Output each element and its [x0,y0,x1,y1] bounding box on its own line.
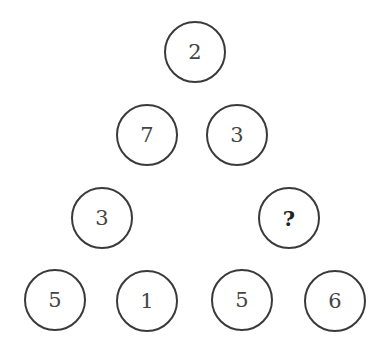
node-row4-4: 6 [304,270,366,332]
node-value: 1 [140,289,153,313]
node-value: 3 [230,123,243,147]
node-value: 7 [140,123,153,147]
node-row4-2: 1 [116,270,178,332]
node-value: 5 [48,288,61,312]
node-unknown: ? [258,187,320,249]
node-value: 5 [235,288,248,312]
node-value: 3 [95,206,108,230]
node-top: 2 [164,21,226,83]
node-row4-1: 5 [24,269,86,331]
node-row3-left: 3 [71,187,133,249]
node-row2-left: 7 [116,104,178,166]
node-row2-right: 3 [206,104,268,166]
node-value: 6 [328,289,341,313]
node-value: 2 [188,40,201,64]
node-row4-3: 5 [211,269,273,331]
question-mark: ? [283,206,295,231]
